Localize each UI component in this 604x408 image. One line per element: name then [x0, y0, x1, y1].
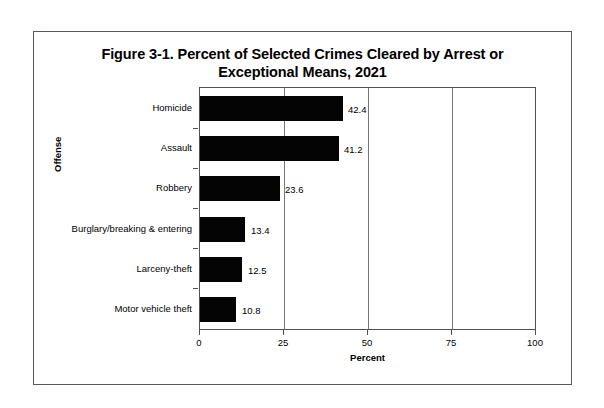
- bar-larceny-theft: [200, 257, 242, 282]
- category-label-robbery: Robbery: [2, 182, 192, 193]
- x-axis-title: Percent: [199, 352, 536, 363]
- bar-value-burglary: 13.4: [251, 224, 270, 235]
- x-axis-tick-75: [451, 330, 452, 335]
- chart-title-line-2: Exceptional Means, 2021: [33, 63, 572, 81]
- bar-burglary: [200, 217, 245, 242]
- x-axis-label-100: 100: [515, 337, 555, 348]
- bar-value-larceny-theft: 12.5: [248, 264, 267, 275]
- y-axis-tick-1: [193, 128, 198, 129]
- y-axis-tick-3: [193, 208, 198, 209]
- bar-value-motor-vehicle-theft: 10.8: [242, 304, 261, 315]
- bar-value-robbery: 23.6: [285, 183, 304, 194]
- x-axis-label-75: 75: [431, 337, 471, 348]
- x-axis-label-50: 50: [347, 337, 387, 348]
- bar-value-assault: 41.2: [344, 143, 363, 154]
- category-label-larceny-theft: Larceny-theft: [2, 263, 192, 274]
- gridline-25: [284, 88, 285, 329]
- category-label-assault: Assault: [2, 142, 192, 153]
- chart-title: Figure 3-1. Percent of Selected Crimes C…: [33, 45, 572, 81]
- plot-area: 42.4 41.2 23.6 13.4 12.5 10.8: [199, 87, 536, 330]
- x-axis-tick-25: [283, 330, 284, 335]
- bar-assault: [200, 136, 339, 161]
- bar-value-homicide: 42.4: [348, 103, 367, 114]
- gridline-75: [452, 88, 453, 329]
- bar-motor-vehicle-theft: [200, 297, 236, 322]
- y-axis-tick-5: [193, 288, 198, 289]
- y-axis-tick-4: [193, 248, 198, 249]
- x-axis-tick-100: [535, 330, 536, 335]
- chart-title-line-1: Figure 3-1. Percent of Selected Crimes C…: [33, 45, 572, 63]
- category-label-burglary: Burglary/breaking & entering: [2, 223, 192, 234]
- x-axis-label-25: 25: [263, 337, 303, 348]
- x-axis-tick-50: [367, 330, 368, 335]
- gridline-50: [368, 88, 369, 329]
- y-axis-tick-2: [193, 168, 198, 169]
- bar-homicide: [200, 96, 343, 121]
- category-label-homicide: Homicide: [2, 102, 192, 113]
- bar-robbery: [200, 176, 280, 201]
- y-axis-tick-labels: Homicide Assault Robbery Burglary/breaki…: [0, 87, 192, 330]
- x-axis-tick-0: [199, 330, 200, 335]
- category-label-motor-vehicle-theft: Motor vehicle theft: [2, 303, 192, 314]
- x-axis-label-0: 0: [179, 337, 219, 348]
